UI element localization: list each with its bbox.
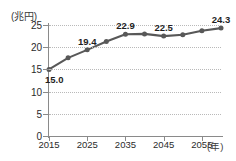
y-axis-tick-labels: 0510152025 [20, 0, 42, 161]
data-point-marker [123, 32, 128, 37]
data-point-marker [66, 55, 71, 60]
series-line [49, 25, 221, 136]
data-point-marker [161, 34, 166, 39]
x-axis-tick-label: 2055 [191, 139, 212, 150]
gridline [49, 114, 221, 115]
y-axis-tick-label: 20 [31, 42, 42, 53]
data-point-value-label: 22.5 [154, 22, 173, 33]
x-axis-tick-label: 2035 [115, 139, 136, 150]
data-point-marker [104, 39, 109, 44]
data-point-marker [180, 32, 185, 37]
x-axis-line [48, 136, 223, 137]
gridline [49, 69, 221, 70]
data-point-marker [199, 28, 204, 33]
data-point-marker [219, 26, 224, 31]
y-axis-tick-mark [43, 47, 49, 48]
y-axis-tick-mark [43, 114, 49, 115]
gridline [49, 25, 221, 26]
y-axis-tick-mark [43, 92, 49, 93]
line-chart: (兆円) 0510152025 (年) 20152025203520452055… [0, 0, 236, 161]
y-axis-tick-mark [43, 69, 49, 70]
y-axis-tick-mark [43, 25, 49, 26]
data-point-marker [142, 31, 147, 36]
data-point-value-label: 19.4 [78, 36, 97, 47]
data-point-value-label: 15.0 [45, 74, 64, 85]
data-point-value-label: 22.9 [116, 20, 135, 31]
gridline [49, 92, 221, 93]
y-axis-tick-label: 15 [31, 64, 42, 75]
x-axis-tick-label: 2015 [38, 139, 59, 150]
gridline [49, 47, 221, 48]
y-axis-tick-label: 5 [36, 108, 42, 119]
x-axis-tick-label: 2025 [77, 139, 98, 150]
plot-area [49, 25, 221, 136]
y-axis-tick-label: 10 [31, 86, 42, 97]
series-polyline [49, 28, 221, 69]
x-axis-tick-label: 2045 [153, 139, 174, 150]
y-axis-tick-label: 25 [31, 20, 42, 31]
data-point-value-label: 24.3 [212, 14, 231, 25]
